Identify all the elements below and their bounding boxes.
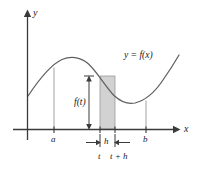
x-axis-arrow-icon <box>173 126 181 133</box>
figure-container: y x y = f(x) f(t) h a b t t + h <box>0 0 199 170</box>
y-axis-arrow-icon <box>24 10 31 18</box>
tick-label-a: a <box>51 135 56 144</box>
tick-label-t-plus-h: t + h <box>110 152 128 161</box>
ft-value-label: f(t) <box>74 98 86 108</box>
graph-canvas <box>0 0 199 170</box>
tick-label-t: t <box>98 152 101 161</box>
tick-label-b: b <box>143 135 148 144</box>
curve-label: y = f(x) <box>124 51 153 61</box>
y-axis-label: y <box>33 8 37 18</box>
shaded-strip-region <box>100 76 115 129</box>
h-width-label: h <box>104 137 109 146</box>
x-axis-label: x <box>184 124 188 134</box>
